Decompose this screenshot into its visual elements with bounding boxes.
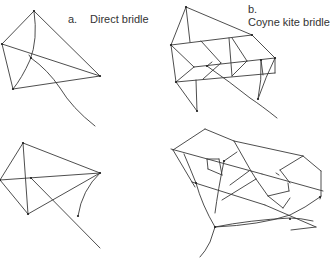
- kite-line: [258, 60, 261, 99]
- joint-dot: [12, 88, 14, 90]
- label-b-title: Coyne kite bridle: [248, 16, 330, 29]
- kite-line: [303, 156, 321, 171]
- kite-line: [283, 198, 290, 208]
- kite-line: [31, 178, 100, 248]
- kite-line: [28, 173, 100, 214]
- joint-dot: [77, 215, 79, 217]
- kite-line: [23, 143, 100, 173]
- kite-line: [0, 173, 100, 180]
- joint-dot: [99, 75, 101, 77]
- kite-line: [0, 143, 23, 180]
- kite-line: [29, 55, 95, 126]
- joint-dot: [206, 65, 208, 67]
- joint-dot: [196, 110, 198, 112]
- joint-dot: [319, 196, 321, 198]
- kite-line: [288, 183, 289, 191]
- kite-line: [230, 171, 249, 185]
- kite-line: [186, 7, 190, 42]
- kite-line: [192, 182, 265, 205]
- panel-a-direct-bridle-kite: [1, 10, 101, 126]
- kite-line: [207, 62, 277, 118]
- kite-line: [176, 67, 194, 82]
- panel-d-coyne-kite-perspective: [171, 129, 323, 257]
- joint-dot: [175, 81, 177, 83]
- kite-line: [268, 196, 283, 208]
- joint-dot: [289, 218, 291, 220]
- kite-line: [176, 73, 275, 82]
- kite-line: [232, 61, 247, 76]
- joint-dot: [170, 44, 172, 46]
- joint-dot: [251, 34, 253, 36]
- kite-line: [171, 45, 194, 67]
- joint-dot: [30, 177, 32, 179]
- kite-line: [173, 129, 205, 150]
- joint-dot: [30, 57, 32, 59]
- kite-line: [176, 82, 197, 111]
- label-a-letter: a.: [68, 13, 90, 26]
- kite-line: [207, 159, 208, 169]
- joint-dot: [195, 182, 197, 184]
- kite-line: [252, 35, 275, 58]
- kite-line: [265, 205, 316, 227]
- joint-dot: [185, 6, 187, 8]
- label-b-letter: b.: [248, 3, 330, 16]
- kite-line: [171, 35, 252, 45]
- label-direct-bridle: a.Direct bridle: [68, 13, 149, 26]
- kite-line: [2, 44, 13, 89]
- kite-line: [224, 152, 237, 161]
- joint-dot: [27, 213, 29, 215]
- joint-dot: [33, 10, 35, 12]
- kite-line: [196, 183, 215, 227]
- kite-line: [215, 197, 320, 227]
- kite-line: [276, 173, 279, 175]
- kite-line: [196, 80, 197, 111]
- joint-dot: [274, 57, 276, 59]
- kite-line: [234, 141, 303, 156]
- kite-line: [280, 170, 290, 183]
- kite-line: [200, 227, 215, 257]
- kite-line: [13, 11, 35, 89]
- kite-line: [262, 174, 323, 191]
- kite-line: [234, 141, 251, 171]
- joint-dot: [22, 142, 24, 144]
- joint-dot: [99, 172, 101, 174]
- kite-line: [232, 38, 247, 61]
- kite-line: [229, 38, 232, 76]
- kite-line: [201, 41, 221, 63]
- joint-dot: [1, 43, 3, 45]
- kite-line: [268, 191, 289, 196]
- joint-dot: [260, 59, 262, 61]
- kite-line: [2, 44, 100, 76]
- kite-line: [280, 156, 303, 170]
- label-a-title: Direct bridle: [90, 13, 149, 25]
- label-coyne-kite-bridle: b. Coyne kite bridle: [248, 3, 330, 29]
- joint-dot: [223, 160, 225, 162]
- joint-dot: [257, 98, 259, 100]
- kite-line: [205, 129, 234, 141]
- kite-line: [208, 169, 222, 175]
- kite-line: [171, 45, 176, 82]
- kite-line: [256, 179, 268, 196]
- kite-bridle-diagram: [0, 0, 332, 258]
- kite-line: [186, 7, 252, 35]
- kite-line: [291, 227, 316, 230]
- kite-line: [0, 180, 28, 214]
- kite-line: [171, 7, 186, 45]
- kite-line: [2, 11, 34, 44]
- joint-dot: [214, 226, 216, 228]
- kite-line: [215, 161, 224, 213]
- panel-c-direct-bridle-kite-variant: [0, 142, 101, 248]
